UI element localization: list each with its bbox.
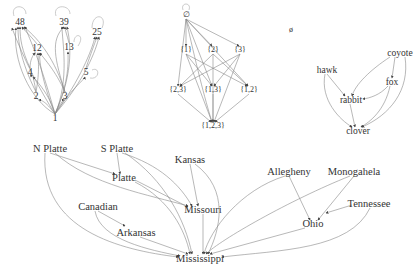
node-48: 48	[15, 17, 25, 27]
node-tennessee: Tennessee	[348, 199, 391, 209]
node-mississippi: Mississippi	[176, 254, 224, 264]
node-2: 2	[34, 91, 39, 101]
node-allegheny: Allegheny	[267, 167, 311, 177]
node-25: 25	[92, 27, 102, 37]
node-arkansas: Arkansas	[116, 228, 155, 238]
node-missouri: Missouri	[184, 205, 221, 215]
node-set-1-3: {1,3}	[204, 85, 222, 95]
node-empty-set: ∅	[183, 10, 190, 20]
node-set-1-2-3: {1,2,3}	[201, 121, 225, 131]
node-3: 3	[63, 91, 68, 101]
node-set-2-3: {2,3}	[169, 85, 187, 95]
node-clover: clover	[346, 126, 370, 136]
node-fox: fox	[386, 77, 399, 87]
node-1: 1	[53, 113, 58, 123]
node-s-platte: S Platte	[101, 144, 133, 154]
node-set-1-2: {1,2}	[240, 85, 258, 95]
isolated-node: ø	[289, 25, 293, 35]
node-ohio: Ohio	[303, 219, 324, 229]
node-hawk: hawk	[317, 65, 338, 75]
node-n-platte: N Platte	[33, 144, 67, 154]
node-set-3: {3}	[234, 45, 246, 55]
node-12: 12	[32, 43, 42, 53]
node-5: 5	[84, 67, 89, 77]
node-coyote: coyote	[387, 48, 412, 58]
node-set-2: {2}	[207, 45, 219, 55]
node-canadian: Canadian	[78, 202, 118, 212]
node-platte: Platte	[112, 173, 136, 183]
node-4: 4	[28, 67, 33, 77]
node-rabbit: rabbit	[340, 95, 362, 105]
node-set-1: {1}	[180, 45, 192, 55]
node-13: 13	[64, 42, 74, 52]
node-kansas: Kansas	[175, 155, 205, 165]
node-39: 39	[59, 17, 69, 27]
node-monogahela: Monogahela	[328, 167, 381, 177]
